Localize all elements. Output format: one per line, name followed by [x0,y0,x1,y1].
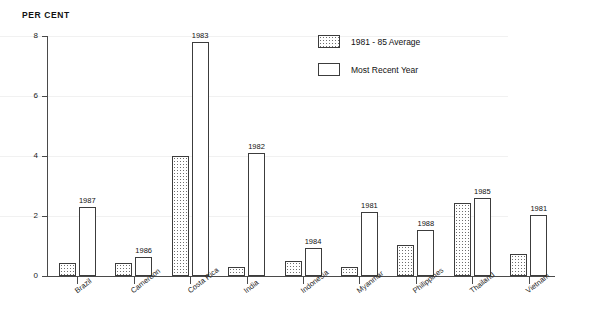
bar-value-label: 1987 [79,196,96,205]
bar-vietnam-recent [530,215,547,277]
bar-vietnam-average [510,254,527,277]
bar-myanmar-average [341,267,358,276]
bar-india-recent [248,153,265,276]
bar-philippines-recent [417,230,434,277]
bar-value-label: 1983 [192,31,209,40]
bar-value-label: 1988 [418,219,435,228]
bar-value-label: 1985 [474,187,491,196]
x-axis-label-brazil: Brazil [73,276,93,295]
x-axis-line [47,276,555,277]
legend-label-recent: Most Recent Year [351,65,418,75]
legend-item-recent: Most Recent Year [318,61,420,78]
bar-cameroon-average [115,263,132,276]
y-tick-label-6: 6 [22,91,38,100]
bar-value-label: 1982 [248,142,265,151]
chart-legend: 1981 - 85 Average Most Recent Year [318,33,420,89]
y-tick-label-2: 2 [22,211,38,220]
bar-philippines-average [397,245,414,277]
bar-value-label: 1986 [135,246,152,255]
bar-india-average [228,267,245,276]
legend-swatch-average [318,35,340,48]
plot-area: 198719861983198219841981198819851981 [47,36,555,276]
legend-label-average: 1981 - 85 Average [351,37,420,47]
bar-indonesia-average [285,261,302,276]
bar-value-label: 1981 [361,201,378,210]
bar-brazil-average [59,263,76,277]
chart-figure: PER CENT 86420 1987198619831982198419811… [0,0,590,326]
y-tick-label-0: 0 [22,271,38,280]
bar-value-label: 1984 [305,237,322,246]
bar-thailand-average [454,203,471,277]
y-axis-title: PER CENT [22,10,70,20]
y-tick-label-4: 4 [22,151,38,160]
bar-value-label: 1981 [530,204,547,213]
bar-thailand-recent [474,198,491,276]
x-axis-label-india: India [242,278,260,295]
bar-costa-rica-average [172,156,189,276]
legend-swatch-recent [318,63,340,76]
bar-costa-rica-recent [192,42,209,276]
bar-myanmar-recent [361,212,378,277]
legend-item-average: 1981 - 85 Average [318,33,420,50]
bar-brazil-recent [79,207,96,276]
y-tick-label-8: 8 [22,31,38,40]
y-tick [42,276,47,277]
